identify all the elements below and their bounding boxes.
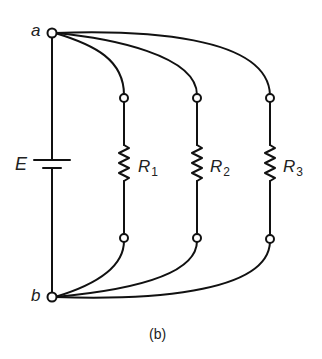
resistor-r2: [192, 101, 202, 235]
r1-bottom-terminal: [120, 234, 128, 242]
resistor-zigzag: [192, 145, 202, 181]
node-a-terminal: [48, 29, 57, 38]
node-a-label: a: [31, 22, 40, 39]
r1-top-terminal: [120, 94, 128, 102]
node-b-label: b: [31, 287, 40, 304]
parallel-circuit-diagram: a b E R1 R2 R3 (b): [0, 0, 322, 359]
source-e-label: E: [15, 155, 27, 173]
resistor-r1-label: R1: [138, 158, 158, 178]
wire-a-to-r2: [55, 33, 197, 95]
r2-bottom-terminal: [193, 234, 201, 242]
figure-caption: (b): [149, 327, 166, 341]
resistor-zigzag: [265, 145, 275, 181]
battery-branch: [34, 36, 70, 294]
r3-top-terminal: [266, 94, 274, 102]
r2-top-terminal: [193, 94, 201, 102]
resistor-r1: [119, 101, 129, 235]
resistor-r3-label: R3: [283, 158, 303, 178]
resistor-r3: [265, 101, 275, 236]
r3-bottom-terminal: [266, 235, 274, 243]
node-b-terminal: [48, 293, 57, 302]
resistor-zigzag: [119, 145, 129, 181]
circuit-drawing: [0, 0, 322, 359]
wire-r3-to-b: [55, 242, 270, 298]
resistor-r2-label: R2: [210, 158, 230, 178]
wire-a-to-r3: [55, 32, 270, 95]
